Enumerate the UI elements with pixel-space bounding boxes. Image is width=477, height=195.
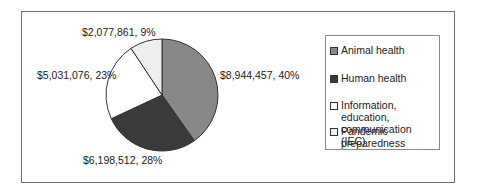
legend-item-human-health: Human health bbox=[330, 72, 406, 84]
legend-label: Information, education, bbox=[341, 99, 439, 123]
legend-swatch bbox=[330, 102, 338, 110]
legend-label: Human health bbox=[341, 72, 406, 84]
label-pandemic: $2,077,861, 9% bbox=[82, 26, 156, 38]
legend-label: Animal health bbox=[341, 44, 405, 56]
legend: Animal health Human health Information, … bbox=[325, 35, 440, 150]
legend-swatch bbox=[330, 75, 338, 83]
legend-swatch bbox=[330, 47, 338, 55]
legend-swatch bbox=[330, 128, 338, 136]
legend-label: Pandemic preparedness bbox=[341, 125, 439, 149]
legend-item-pandemic-preparedness: Pandemic preparedness bbox=[330, 125, 439, 149]
label-human: $6,198,512, 28% bbox=[83, 154, 162, 166]
legend-item-animal-health: Animal health bbox=[330, 44, 405, 56]
label-animal: $8,944,457, 40% bbox=[220, 69, 299, 81]
label-iec: $5,031,076, 23% bbox=[37, 69, 116, 81]
